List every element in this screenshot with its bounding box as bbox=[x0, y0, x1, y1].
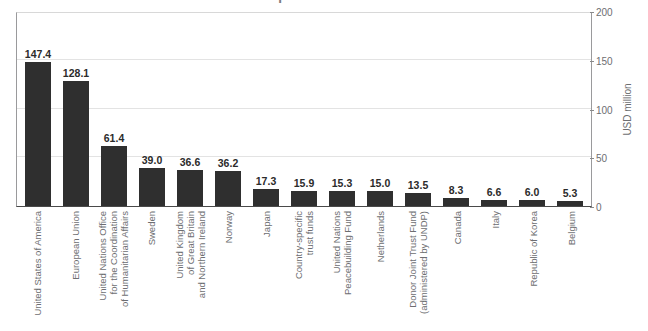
x-axis-category-line: trust funds bbox=[304, 211, 315, 279]
x-axis-category-label[interactable]: Norway bbox=[222, 211, 233, 243]
y-axis-title-label: USD million bbox=[622, 83, 633, 135]
bar-value-label: 128.1 bbox=[63, 67, 89, 79]
x-axis-category-line: United States of America bbox=[32, 211, 43, 316]
y-tick-label: 150 bbox=[596, 55, 613, 66]
bar-value-label: 13.5 bbox=[408, 179, 428, 191]
x-axis-category-label[interactable]: Canada bbox=[451, 211, 462, 244]
bar[interactable] bbox=[329, 191, 354, 206]
x-axis-category-line: European Union bbox=[70, 211, 81, 280]
x-axis-category-line: Italy bbox=[489, 211, 500, 228]
x-axis-category-line: Japan bbox=[260, 211, 271, 237]
x-axis-category-line: Norway bbox=[222, 211, 233, 243]
bar-value-label: 36.2 bbox=[218, 157, 238, 169]
bar-slot: 13.5 bbox=[399, 13, 437, 206]
x-axis-category-line: Peacebuilding Fund bbox=[342, 211, 353, 295]
x-label-slot: United States of America bbox=[18, 209, 56, 331]
x-label-slot: United Kingdomof Great Britainand Northe… bbox=[171, 209, 209, 331]
bar-slot: 6.6 bbox=[475, 13, 513, 206]
x-axis-category-line: (administered by UNDP) bbox=[418, 211, 429, 314]
x-label-slot: United NationsPeacebuilding Fund bbox=[323, 209, 361, 331]
y-tick-mark bbox=[590, 207, 594, 208]
x-axis-category-label[interactable]: United Kingdomof Great Britainand Northe… bbox=[173, 211, 206, 298]
x-axis-category-label[interactable]: Republic of Korea bbox=[527, 211, 538, 287]
x-axis-category-label[interactable]: Sweden bbox=[146, 211, 157, 245]
x-label-slot: Sweden bbox=[132, 209, 170, 331]
y-tick-mark bbox=[590, 158, 594, 159]
bar-chart-figure: resource partners in 2018 147.4128.161.4… bbox=[0, 0, 648, 331]
x-axis-category-label[interactable]: Netherlands bbox=[375, 211, 386, 262]
bar[interactable] bbox=[101, 146, 126, 206]
x-axis-category-label[interactable]: United NationsPeacebuilding Fund bbox=[331, 211, 353, 295]
x-axis-category-line: Republic of Korea bbox=[527, 211, 538, 287]
bar-value-label: 15.3 bbox=[332, 177, 352, 189]
x-label-slot: Italy bbox=[476, 209, 514, 331]
x-label-slot: United Nations Officefor the Coordinatio… bbox=[94, 209, 132, 331]
bar-value-label: 61.4 bbox=[104, 132, 124, 144]
bar[interactable] bbox=[291, 191, 316, 207]
x-label-slot: Republic of Korea bbox=[514, 209, 552, 331]
x-label-slot: Netherlands bbox=[361, 209, 399, 331]
bar[interactable] bbox=[253, 189, 278, 206]
bar-value-label: 6.0 bbox=[525, 186, 540, 198]
x-axis-category-line: Country-specific bbox=[293, 211, 304, 279]
x-axis-category-label[interactable]: Donor Joint Trust Fund(administered by U… bbox=[407, 211, 429, 314]
bar-value-label: 15.0 bbox=[370, 177, 390, 189]
chart-title: resource partners in 2018 bbox=[0, 0, 600, 3]
bar-value-label: 5.3 bbox=[563, 187, 578, 199]
x-axis-category-label[interactable]: Italy bbox=[489, 211, 500, 228]
y-tick-mark bbox=[590, 110, 594, 111]
bar-slot: 15.0 bbox=[361, 13, 399, 206]
bar[interactable] bbox=[25, 62, 50, 206]
x-label-slot: Canada bbox=[438, 209, 476, 331]
bar-value-label: 17.3 bbox=[256, 175, 276, 187]
bar[interactable] bbox=[63, 81, 88, 206]
x-axis-category-line: Donor Joint Trust Fund bbox=[407, 211, 418, 314]
x-axis-category-line: Belgium bbox=[566, 211, 577, 245]
bar[interactable] bbox=[405, 193, 430, 206]
x-axis-category-line: and Northern Ireland bbox=[195, 211, 206, 298]
bar-slot: 6.0 bbox=[513, 13, 551, 206]
bar-slot: 17.3 bbox=[247, 13, 285, 206]
y-tick-label: 0 bbox=[596, 202, 602, 213]
x-axis-category-label[interactable]: Belgium bbox=[566, 211, 577, 245]
x-label-slot: Belgium bbox=[552, 209, 590, 331]
x-axis-category-line: United Kingdom bbox=[173, 211, 184, 298]
bar[interactable] bbox=[215, 171, 240, 206]
bar[interactable] bbox=[557, 201, 582, 206]
x-axis-category-line: of Humanitarian Affairs bbox=[119, 211, 130, 307]
y-tick-label: 100 bbox=[596, 104, 613, 115]
bar-value-label: 39.0 bbox=[142, 154, 162, 166]
bar-slot: 39.0 bbox=[133, 13, 171, 206]
bar-value-label: 36.6 bbox=[180, 156, 200, 168]
y-tick-label: 200 bbox=[596, 7, 613, 18]
x-axis-category-label[interactable]: United States of America bbox=[32, 211, 43, 316]
bar-value-label: 15.9 bbox=[294, 177, 314, 189]
x-label-slot: Japan bbox=[247, 209, 285, 331]
x-axis-category-label[interactable]: Japan bbox=[260, 211, 271, 237]
x-label-slot: European Union bbox=[56, 209, 94, 331]
bar[interactable] bbox=[139, 168, 164, 206]
bar-slot: 8.3 bbox=[437, 13, 475, 206]
x-label-slot: Norway bbox=[209, 209, 247, 331]
x-axis-category-line: United Nations bbox=[331, 211, 342, 295]
bar[interactable] bbox=[177, 170, 202, 206]
x-axis-category-label[interactable]: Country-specifictrust funds bbox=[293, 211, 315, 279]
y-tick-mark bbox=[590, 12, 594, 13]
bars-layer: 147.4128.161.439.036.636.217.315.915.315… bbox=[17, 13, 591, 206]
x-axis-labels: United States of AmericaEuropean UnionUn… bbox=[16, 209, 592, 331]
x-axis-category-line: Canada bbox=[451, 211, 462, 244]
bar[interactable] bbox=[443, 198, 468, 206]
bar[interactable] bbox=[481, 200, 506, 206]
bar-slot: 147.4 bbox=[19, 13, 57, 206]
bar-value-label: 6.6 bbox=[487, 186, 502, 198]
bar[interactable] bbox=[367, 191, 392, 206]
x-axis-category-label[interactable]: European Union bbox=[70, 211, 81, 280]
plot-area: 147.4128.161.439.036.636.217.315.915.315… bbox=[16, 12, 592, 207]
bar-slot: 5.3 bbox=[551, 13, 589, 206]
bar[interactable] bbox=[519, 200, 544, 206]
bar-value-label: 147.4 bbox=[25, 48, 51, 60]
y-axis-title: USD million bbox=[619, 12, 635, 207]
x-label-slot: Donor Joint Trust Fund(administered by U… bbox=[399, 209, 437, 331]
x-axis-category-label[interactable]: United Nations Officefor the Coordinatio… bbox=[97, 211, 130, 307]
bar-slot: 15.9 bbox=[285, 13, 323, 206]
